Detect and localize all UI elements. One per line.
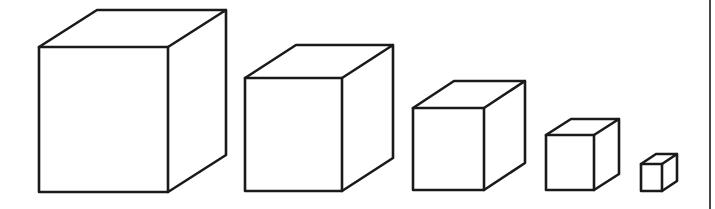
cube-diagram bbox=[0, 0, 715, 209]
cube-front-face bbox=[413, 108, 484, 190]
cube-front-face bbox=[245, 78, 342, 191]
cube-3 bbox=[413, 81, 525, 190]
cube-2 bbox=[245, 45, 393, 191]
cube-front-face bbox=[641, 164, 662, 191]
cube-1 bbox=[39, 10, 226, 192]
cube-5 bbox=[641, 154, 677, 191]
cube-front-face bbox=[546, 135, 594, 190]
cubes-canvas bbox=[0, 0, 715, 209]
cube-4 bbox=[546, 119, 619, 190]
cube-front-face bbox=[39, 47, 168, 192]
